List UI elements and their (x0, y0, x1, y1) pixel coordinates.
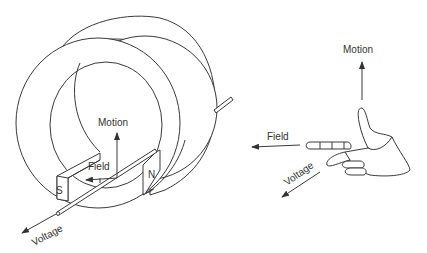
hand-field-arrow (252, 145, 300, 147)
hand-field-label: Field (267, 131, 289, 142)
north-pole-label: N (148, 169, 155, 180)
hand-motion-label: Motion (343, 44, 373, 55)
hand-arrows (252, 62, 362, 197)
generator-motion-label: Motion (98, 117, 128, 128)
south-pole-label: S (56, 185, 63, 196)
generator-diagram: Motion Field Voltage S N Motion Field Vo… (0, 0, 427, 253)
right-hand-illustration (306, 108, 410, 176)
hand-voltage-label: Voltage (282, 159, 316, 187)
generator-field-label: Field (88, 161, 110, 172)
